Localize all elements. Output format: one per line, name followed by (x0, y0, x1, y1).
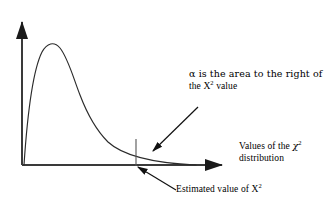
estimated-value-annotation: Estimated value of X2 (176, 184, 262, 196)
chi-square-diagram: α is the area to the right of the X2 val… (0, 0, 332, 212)
estimated-value-text: Estimated value of X (176, 184, 258, 194)
distribution-curve (24, 44, 196, 165)
estimated-value-pointer-arrow (138, 167, 176, 190)
alpha-annotation-line-2: the X2 value (189, 81, 322, 93)
alpha-area-annotation: α is the area to the right of the X2 val… (189, 68, 322, 92)
x-axis-label-line-1-prefix: Values of the (239, 141, 292, 151)
alpha-annotation-line-1-text: α is the area to the right of (189, 68, 322, 79)
x-axis-label: Values of the χ2 distribution (239, 140, 302, 164)
chi-superscript: 2 (298, 139, 301, 146)
figure-canvas (0, 0, 332, 212)
estimated-value-superscript: 2 (258, 182, 261, 189)
alpha-annotation-line-2-prefix: the X (189, 81, 210, 91)
alpha-pointer-arrow (153, 107, 198, 151)
x-axis-label-line-1: Values of the χ2 (239, 140, 302, 153)
alpha-annotation-line-1: α is the area to the right of (189, 68, 322, 81)
alpha-annotation-line-2-suffix: value (214, 81, 238, 91)
x-axis-label-line-2: distribution (239, 153, 302, 165)
